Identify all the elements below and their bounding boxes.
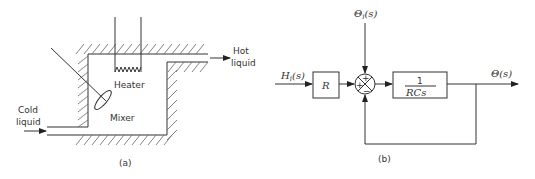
figure-a-tank-diagram: Heater Mixer Cold liquid Hot liquid (a) (16, 17, 256, 168)
input-temp-label: Θi(s) (354, 8, 377, 21)
sum-sign-bottom: − (363, 86, 371, 96)
figure-b-block-diagram: Hi(s) R Θi(s) + + − 1 RCs Θ(s) (b) (275, 8, 518, 164)
heater-label: Heater (114, 80, 145, 90)
mixer-label: Mixer (110, 113, 135, 123)
block-r-label: R (321, 80, 330, 91)
tf-denominator: RCs (405, 87, 426, 98)
caption-a: (a) (119, 158, 132, 168)
summing-junction: + + − (355, 73, 375, 96)
hot-liquid-label-1: Hot (233, 46, 249, 56)
input-heat-label: Hi(s) (280, 70, 305, 83)
hot-liquid-label-2: liquid (231, 58, 256, 68)
mixer-shaft (51, 48, 114, 112)
caption-b: (b) (378, 154, 391, 164)
wall-hatching (76, 44, 208, 145)
cold-liquid-label-2: liquid (16, 117, 41, 127)
tf-numerator: 1 (417, 76, 423, 86)
cold-liquid-label-1: Cold (18, 105, 38, 115)
output-label: Θ(s) (491, 68, 512, 79)
heater-element (115, 17, 141, 72)
